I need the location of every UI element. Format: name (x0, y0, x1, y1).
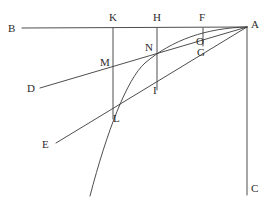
point-label-c: C (251, 183, 258, 194)
point-label-l: L (113, 113, 120, 124)
point-label-i: I (153, 85, 157, 96)
point-label-g: G (197, 47, 205, 58)
point-label-d: D (27, 83, 35, 94)
line-DA (40, 27, 247, 88)
point-label-k: K (109, 12, 117, 23)
segments-group (22, 27, 247, 195)
point-label-f: F (199, 12, 205, 23)
figure-canvas (0, 0, 274, 205)
geometry-figure: BKHFACDEMNOGIL (0, 0, 274, 205)
point-label-b: B (8, 23, 15, 34)
point-label-e: E (42, 139, 49, 150)
point-label-m: M (100, 57, 110, 68)
point-label-n: N (145, 42, 153, 53)
point-label-a: A (251, 19, 259, 30)
point-label-h: H (153, 12, 161, 23)
line-BA (22, 27, 247, 28)
